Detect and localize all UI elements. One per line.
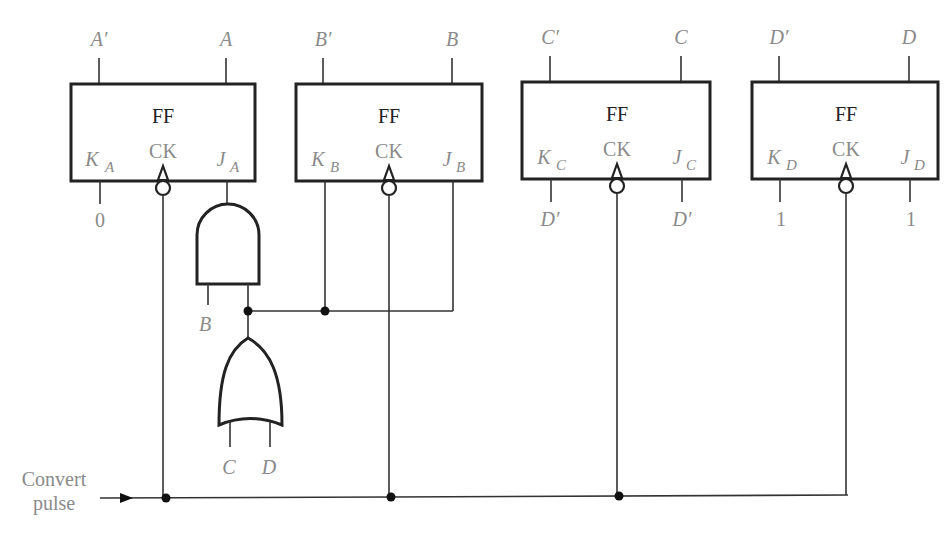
ff-d-j-input: 1 [906,208,916,230]
ff-d-ck-label: CK [832,138,860,160]
ff-a-j-sub: A [229,159,240,175]
ff-c-k-label: K [536,146,552,168]
and-gate: B [197,204,259,337]
junction-dot [387,493,396,502]
ff-d-out-left: D′ [769,26,789,48]
ff-b-ck-label: CK [375,140,403,162]
ff-c-title: FF [606,103,628,125]
junction-dot [244,307,253,316]
flip-flop-c: FF CK K C J C C′ C D′ D′ [522,26,710,230]
ff-c-out-left: C′ [541,26,559,48]
ff-c-j-sub: C [686,157,697,173]
ff-d-k-sub: D [785,157,797,173]
or-input-d-label: D [261,456,277,478]
ff-d-j-label: J [901,146,911,168]
and-input-b-label: B [199,313,211,335]
flip-flop-d: FF CK K D J D D′ D 1 1 [752,26,938,230]
ff-a-k-label: K [84,148,100,170]
ff-b-k-label: K [310,148,326,170]
arrow-right-icon [120,493,133,503]
ff-b-out-left: B′ [315,28,332,50]
clock-input-label-line2: pulse [33,492,75,515]
or-input-c-label: C [222,456,236,478]
inverter-bubble-icon [610,179,624,193]
junction-dot [162,494,171,503]
ff-a-j-label: J [217,148,227,170]
ff-c-k-sub: C [556,157,567,173]
ff-d-title: FF [835,103,857,125]
junction-dot [321,307,330,316]
inverter-bubble-icon [382,181,396,195]
inverter-bubble-icon [839,179,853,193]
ff-c-out-right: C [674,26,688,48]
ff-a-ck-label: CK [149,140,177,162]
ff-b-j-label: J [443,148,453,170]
ff-a-out-left: A′ [89,28,108,50]
ff-a-out-right: A [218,28,233,50]
ff-c-j-label: J [673,146,683,168]
or-gate: C D [219,338,282,478]
or-gate-icon [219,338,282,425]
ff-a-k-input: 0 [95,209,105,231]
ff-a-title: FF [152,105,174,127]
ff-a-k-sub: A [104,159,115,175]
inverter-bubble-icon [156,181,170,195]
clock-bus: Convert pulse [22,193,848,515]
ff-b-out-right: B [446,28,458,50]
ff-d-out-right: D [901,26,917,48]
junction-dot [615,492,624,501]
ff-c-ck-label: CK [603,138,631,160]
ff-c-j-input: D′ [672,208,692,230]
ff-c-k-input: D′ [540,208,560,230]
ff-d-k-input: 1 [776,208,786,230]
ff-b-k-sub: B [330,159,339,175]
circuit-diagram: FF CK K A J A A′ A 0 FF CK K B J B B′ B … [0,0,952,535]
ff-b-j-sub: B [456,159,465,175]
ff-d-k-label: K [766,146,782,168]
ff-b-title: FF [378,105,400,127]
and-gate-icon [197,204,259,284]
ff-d-j-sub: D [913,157,925,173]
clock-input-label-line1: Convert [22,468,87,490]
